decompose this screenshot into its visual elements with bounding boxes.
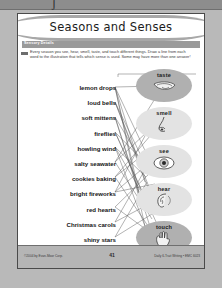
list-item[interactable]: soft mittens xyxy=(22,110,118,125)
list-item[interactable]: red hearts xyxy=(22,202,118,217)
section-strip: Sensory Details xyxy=(22,41,200,48)
list-item[interactable]: Christmas carols xyxy=(22,217,118,232)
screenshot-root: ʃ Seasons and Senses Sensory Details Eve… xyxy=(0,0,222,288)
cut-off-text-glyph: ʃ xyxy=(52,0,56,11)
list-item[interactable]: howling wind xyxy=(22,141,118,156)
instruction-marker-icon xyxy=(21,52,28,55)
list-item[interactable]: lemon drops xyxy=(22,80,118,95)
page-footer: ©2004 by Evan-Moor Corp. 41 Daily 6-Trai… xyxy=(18,245,205,268)
tongue-icon xyxy=(149,78,179,94)
list-item[interactable]: loud bells xyxy=(22,95,118,110)
sense-option-taste[interactable]: taste xyxy=(136,69,192,102)
footer-source: Daily 6-Trait Writing • EMC 6023 xyxy=(154,254,200,258)
list-item[interactable]: bright fireworks xyxy=(22,186,118,201)
ear-icon xyxy=(153,192,175,210)
section-label: Sensory Details xyxy=(24,41,54,45)
instructions-text: Every season you see, hear, smell, taste… xyxy=(30,49,194,60)
window-top-bar: ʃ xyxy=(0,0,222,10)
list-item[interactable]: cookies baking xyxy=(22,171,118,186)
eye-icon xyxy=(152,154,176,172)
page-title: Seasons and Senses xyxy=(18,20,204,34)
word-list: lemon drops loud bells soft mittens fire… xyxy=(22,80,118,247)
worksheet-page: Seasons and Senses Sensory Details Every… xyxy=(17,13,205,269)
list-item[interactable]: fireflies xyxy=(22,126,118,141)
sense-option-see[interactable]: see xyxy=(136,145,192,178)
sense-option-smell[interactable]: smell xyxy=(136,107,192,140)
nose-icon xyxy=(153,116,175,134)
sense-option-hear[interactable]: hear xyxy=(136,183,192,216)
list-item[interactable]: salty seawater xyxy=(22,156,118,171)
sense-list: taste smell see xyxy=(136,69,200,259)
